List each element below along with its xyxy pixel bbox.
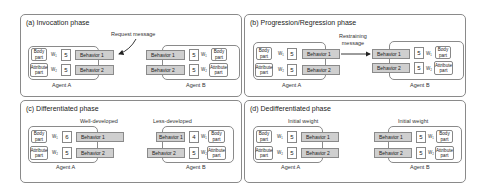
agent-a-label: Agent A <box>282 82 301 88</box>
agent-b-label: Agent B <box>410 164 430 170</box>
restraining-message-label: Restrainingmessage <box>339 33 367 46</box>
weight-label-w1: W₁ <box>277 134 283 139</box>
weight-label-w2: W₂ <box>201 67 207 72</box>
request-message-label: Request message <box>111 31 155 38</box>
weight-value-2: 5 <box>189 147 199 159</box>
behavior-1-box: Behavior 1 <box>372 49 410 59</box>
well-developed-label: Well-developed <box>80 118 118 125</box>
weight-value-1: 5 <box>414 47 424 59</box>
weight-value-2: 5 <box>414 62 424 74</box>
behavior-2-box: Behavior 2 <box>75 65 114 75</box>
behavior-1-box: Behavior 1 <box>302 49 340 59</box>
attribute-part-box: Attributepart <box>435 146 454 160</box>
behavior-1-box: Behavior 1 <box>75 50 114 60</box>
behavior-2-box: Behavior 2 <box>302 65 340 75</box>
panel-title: (a) Invocation phase <box>26 19 89 26</box>
attribute-part-box: Attributepart <box>209 63 228 77</box>
behavior-1-box: Behavior 1 <box>146 50 185 60</box>
weight-value-2: 5 <box>287 147 297 159</box>
body-part-box: Bodypart <box>256 130 272 143</box>
weight-label-w1: W₁ <box>428 134 434 139</box>
behavior-2-box: Behavior 2 <box>301 148 339 158</box>
weight-value-2: 5 <box>61 64 71 76</box>
weight-label-w2: W₂ <box>426 66 432 71</box>
behavior-2-box: Behavior 2 <box>76 148 114 158</box>
initial-weight-label-a: Initial weight <box>288 118 318 125</box>
attribute-part-box: Attributepart <box>434 61 453 75</box>
behavior-2-box: Behavior 2 <box>146 65 185 75</box>
attribute-part-box: Attributepart <box>207 146 226 160</box>
weight-value-1: 6 <box>62 131 72 143</box>
weight-label-w2: W₂ <box>278 67 284 72</box>
attribute-part-box: Attributepart <box>30 63 48 77</box>
weight-label-w1: W₁ <box>426 51 432 56</box>
body-part-box: Bodypart <box>31 130 47 143</box>
weight-label-w1: W₁ <box>201 134 207 139</box>
behavior-2-box: Behavior 2 <box>374 148 412 158</box>
weight-label-w1: W₁ <box>278 51 284 56</box>
weight-label-w1: W₁ <box>51 52 57 57</box>
agent-a-label: Agent A <box>281 164 300 170</box>
attribute-part-box: Attributepart <box>30 146 48 160</box>
weight-label-w2: W₂ <box>52 150 58 155</box>
weight-value-2: 5 <box>62 147 72 159</box>
behavior-2-box: Behavior 2 <box>372 63 410 73</box>
less-developed-label: Less-developed <box>153 118 192 125</box>
body-part-box: Bodypart <box>256 47 272 60</box>
body-part-box: Bodypart <box>208 130 225 143</box>
initial-weight-label-b: Initial weight <box>398 118 428 125</box>
weight-label-w2: W₂ <box>51 67 57 72</box>
panel-title: (c) Differentiated phase <box>26 105 99 112</box>
panel-title: (b) Progression/Regression phase <box>250 19 356 26</box>
weight-label-w2: W₂ <box>277 150 283 155</box>
agent-a-label: Agent A <box>52 82 71 88</box>
weight-label-w1: W₁ <box>201 52 207 57</box>
weight-value-2: 5 <box>416 147 426 159</box>
weight-label-w2: W₂ <box>428 150 434 155</box>
agent-b-label: Agent B <box>186 82 206 88</box>
weight-value-1: 4 <box>189 131 199 143</box>
weight-value-1: 5 <box>287 131 297 143</box>
agent-b-label: Agent B <box>186 164 206 170</box>
behavior-1-box: Behavior 1 <box>301 132 339 142</box>
body-part-box: Bodypart <box>31 48 47 61</box>
body-part-box: Bodypart <box>435 46 451 59</box>
weight-value-1: 5 <box>61 49 71 61</box>
agent-a-label: Agent A <box>56 164 75 170</box>
weight-value-1: 5 <box>287 48 297 60</box>
agent-b-container <box>389 41 464 80</box>
attribute-part-box: Attributepart <box>255 146 273 160</box>
behavior-1-box-well-developed: Behavior 1 <box>76 132 124 142</box>
agent-b-label: Agent B <box>410 82 430 88</box>
weight-value-2: 5 <box>189 64 199 76</box>
body-part-box: Bodypart <box>436 130 453 143</box>
weight-label-w1: W₁ <box>52 134 58 139</box>
behavior-2-box: Behavior 2 <box>147 148 185 158</box>
weight-value-2: 5 <box>287 64 297 76</box>
attribute-part-box: Attributepart <box>255 63 273 77</box>
weight-value-1: 5 <box>189 49 199 61</box>
behavior-1-box-less-developed: Behavior 1 <box>156 132 185 142</box>
body-part-box: Bodypart <box>211 48 227 61</box>
panel-title: (d) Dedifferentiated phase <box>250 105 331 112</box>
behavior-1-box: Behavior 1 <box>374 132 412 142</box>
weight-value-1: 5 <box>416 131 426 143</box>
